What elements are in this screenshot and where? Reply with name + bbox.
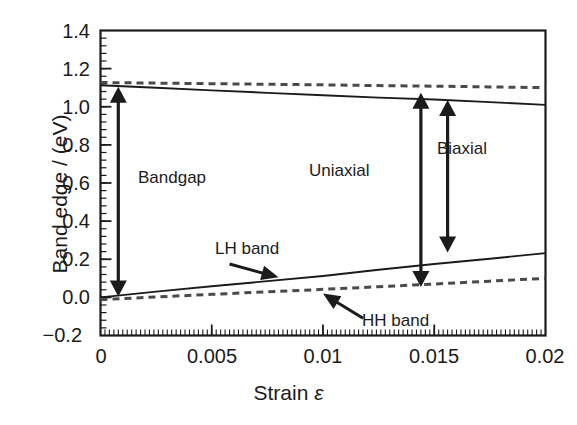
band-edge-strain-chart: 1.4 1.2 1.0 0.8 0.6 0.4 0.2 0.0 −0.2 0 0…: [0, 0, 577, 425]
x-tick-label: 0.005: [162, 345, 262, 368]
x-tick-label: 0: [51, 345, 151, 368]
x-axis-title-text: Strain: [254, 381, 315, 404]
annotation-label-biaxial: Biaxial: [437, 139, 487, 159]
x-axis-title-symbol: ε: [314, 381, 323, 404]
annotation-label-uniaxial: Uniaxial: [309, 161, 369, 181]
annotation-label-bandgap: Bandgap: [138, 168, 206, 188]
y-tick-label: 1.4: [18, 20, 90, 43]
x-tick-label: 0.015: [384, 345, 484, 368]
annotation-label-hh-band: HH band: [362, 311, 429, 331]
x-tick-label: 0.01: [273, 345, 373, 368]
x-tick-label: 0.02: [495, 345, 577, 368]
y-axis-title: Band edge / (eV): [48, 54, 72, 334]
annotation-label-lh-band: LH band: [215, 239, 279, 259]
x-axis-title: Strain ε: [0, 381, 577, 405]
